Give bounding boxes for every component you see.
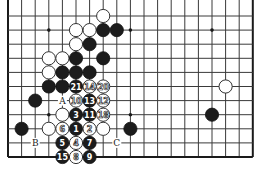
white-stone (219, 80, 232, 93)
white-stone (97, 122, 110, 135)
move-number: 3 (73, 111, 79, 120)
white-stone (56, 52, 69, 65)
go-board: ABC 123456789101112131415182021 (0, 0, 260, 176)
move-12-white: 12 (97, 94, 110, 107)
white-stone (42, 66, 55, 79)
star-point-icon (210, 28, 214, 32)
point-label-a: A (58, 96, 66, 106)
move-2-white: 2 (83, 122, 96, 135)
black-stone (110, 24, 123, 37)
move-13-black: 13 (83, 94, 96, 107)
black-stone (56, 66, 69, 79)
black-stone (205, 108, 218, 121)
black-stone (56, 80, 69, 93)
move-number: 4 (73, 139, 79, 148)
move-number: 14 (84, 83, 96, 92)
star-point-icon (47, 28, 51, 32)
black-stone (124, 122, 137, 135)
move-5-black: 5 (56, 136, 69, 149)
move-number: 2 (87, 125, 93, 134)
star-point-icon (129, 28, 133, 32)
move-18-white: 18 (97, 108, 110, 121)
move-4-white: 4 (69, 136, 82, 149)
white-stone (83, 24, 96, 37)
move-8-white: 8 (69, 150, 82, 163)
move-number: 20 (98, 83, 110, 92)
move-number: 6 (60, 125, 66, 134)
black-stone (15, 122, 28, 135)
black-stone (83, 38, 96, 51)
move-15-black: 15 (56, 150, 69, 163)
move-21-black: 21 (69, 80, 82, 93)
move-14-white: 14 (83, 80, 96, 93)
star-point-icon (129, 113, 133, 117)
black-stone (42, 80, 55, 93)
white-stone (56, 108, 69, 121)
move-number: 8 (73, 153, 79, 162)
move-11-black: 11 (83, 108, 96, 121)
move-10-white: 10 (69, 94, 82, 107)
black-stone (83, 66, 96, 79)
move-number: 13 (84, 97, 95, 106)
move-number: 11 (84, 111, 96, 120)
white-stone (42, 122, 55, 135)
white-stone (97, 9, 110, 22)
white-stone (69, 24, 82, 37)
move-number: 5 (60, 139, 66, 148)
move-number: 15 (57, 153, 69, 162)
black-stone (69, 66, 82, 79)
move-number: 9 (87, 153, 93, 162)
move-9-black: 9 (83, 150, 96, 163)
move-7-black: 7 (83, 136, 96, 149)
white-stone (69, 38, 82, 51)
move-6-white: 6 (56, 122, 69, 135)
point-label-c: C (113, 138, 120, 148)
move-20-white: 20 (97, 80, 110, 93)
black-stone (69, 52, 82, 65)
star-point-icon (47, 113, 51, 117)
move-number: 21 (70, 83, 82, 92)
black-stone (97, 52, 110, 65)
black-stone (97, 24, 110, 37)
move-number: 18 (98, 111, 110, 120)
point-label-b: B (32, 138, 39, 148)
white-stone (42, 52, 55, 65)
black-stone (29, 94, 42, 107)
move-number: 1 (73, 125, 79, 134)
move-1-black: 1 (69, 122, 82, 135)
move-3-black: 3 (69, 108, 82, 121)
move-number: 12 (98, 97, 109, 106)
move-number: 10 (70, 97, 82, 106)
move-number: 7 (87, 139, 93, 148)
